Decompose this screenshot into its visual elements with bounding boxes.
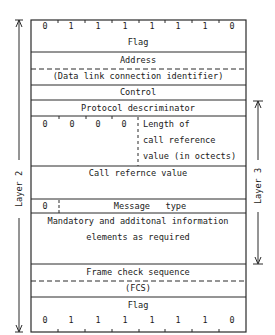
call-reference-label: Call refernce value <box>89 168 187 178</box>
length-bits: 0 0 0 0 <box>42 119 126 129</box>
bottom-bit-1: 0 <box>42 315 47 325</box>
address-label: Address <box>120 55 156 65</box>
flag-bottom-label: Flag <box>128 300 149 310</box>
bottom-bit-5: 1 <box>149 315 154 325</box>
layer3-label: Layer 3 <box>253 168 263 204</box>
bottom-bit-6: 1 <box>175 315 180 325</box>
bottom-bit-4: 1 <box>122 315 127 325</box>
bottom-bit-8: 0 <box>229 315 234 325</box>
bottom-bit-3: 1 <box>95 315 100 325</box>
layer2-label: Layer 2 <box>14 171 24 207</box>
top-bit-7: 1 <box>202 21 207 31</box>
bottom-flag-bits: 0 1 1 1 1 1 1 0 <box>42 315 234 325</box>
length-bit-2: 0 <box>69 119 74 129</box>
dlci-label: (Data link connection identifier) <box>53 71 224 81</box>
info-elements-line1: Mandatory and additonal information <box>47 216 228 226</box>
top-bit-4: 1 <box>122 21 127 31</box>
bottom-bit-7: 1 <box>202 315 207 325</box>
top-bit-1: 0 <box>42 21 47 31</box>
message-type-bit: 0 <box>42 201 47 211</box>
top-bit-2: 1 <box>68 21 73 31</box>
frame-format-diagram: 0 1 1 1 1 1 1 0 Flag Address (Data link … <box>0 0 275 335</box>
length-label-line1: Length of <box>143 119 190 129</box>
top-bit-3: 1 <box>95 21 100 31</box>
top-bit-6: 1 <box>175 21 180 31</box>
length-bit-1: 0 <box>42 119 47 129</box>
top-bit-8: 0 <box>229 21 234 31</box>
length-bit-4: 0 <box>121 119 126 129</box>
top-bit-5: 1 <box>149 21 154 31</box>
protocol-discriminator-label: Protocol descriminator <box>81 103 195 113</box>
length-bit-3: 0 <box>95 119 100 129</box>
length-label-line2: call reference <box>143 135 215 145</box>
length-label-line3: value (in octects) <box>143 151 236 161</box>
info-elements-line2: elements as required <box>86 232 189 242</box>
bottom-bit-2: 1 <box>68 315 73 325</box>
control-label: Control <box>120 87 156 97</box>
message-type-label: Message type <box>114 201 186 211</box>
fcs-abbrev-label: (FCS) <box>125 283 151 293</box>
flag-top-label: Flag <box>128 37 149 47</box>
fcs-label: Frame check sequence <box>86 267 189 277</box>
